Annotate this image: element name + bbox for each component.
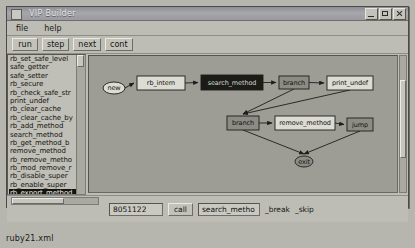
list-item[interactable]: remove_method (9, 147, 77, 155)
list-item[interactable]: rb_set_safe_level (9, 55, 77, 63)
step-button[interactable]: step (42, 38, 69, 51)
graph-canvas-wrap: newrb_internsearch_methodbranchprint_und… (86, 54, 408, 195)
screen: ruby21.xml VIP Builder file help run ste… (0, 0, 415, 248)
graph-node[interactable] (103, 82, 125, 94)
graph-edge (335, 123, 344, 125)
graph-canvas[interactable]: newrb_internsearch_methodbranchprint_und… (88, 55, 398, 193)
close-icon[interactable] (393, 8, 406, 20)
menu-bar: file help (7, 21, 408, 36)
canvas-scrollbar-thumb[interactable] (400, 80, 406, 158)
vip-builder-window: VIP Builder file help run step next cont… (6, 6, 409, 208)
graph-node[interactable] (279, 76, 309, 89)
graph-edge (243, 90, 350, 114)
run-button[interactable]: run (12, 38, 38, 51)
graph-node[interactable] (295, 156, 313, 167)
app-icon (11, 9, 22, 20)
horizontal-scrollbar[interactable] (11, 197, 99, 205)
graph-svg (89, 56, 398, 192)
list-item[interactable]: rb_secure (9, 80, 77, 88)
graph-node[interactable] (201, 75, 263, 90)
list-item[interactable]: rb_mod_remove_r (9, 164, 77, 172)
window-title: VIP Builder (29, 9, 76, 18)
desktop-file-label: ruby21.xml (6, 234, 54, 243)
list-item[interactable]: print_undef (9, 97, 77, 105)
status-bar: 8051122 call search_metho _break _skip (7, 195, 408, 222)
list-item[interactable]: rb_disable_super (9, 172, 77, 180)
graph-edge (185, 83, 198, 84)
list-item[interactable]: rb_remove_metho (9, 156, 77, 164)
list-item[interactable]: rb_add_method (9, 122, 77, 130)
break-label[interactable]: _break (265, 205, 290, 214)
graph-edge (304, 131, 360, 154)
maximize-icon[interactable] (379, 8, 392, 20)
call-button[interactable]: call (168, 203, 193, 216)
skip-label[interactable]: _skip (295, 205, 314, 214)
function-list-scrollbar[interactable] (76, 55, 85, 194)
list-item[interactable]: rb_enable_super (9, 181, 77, 189)
graph-edge (243, 89, 294, 114)
graph-edge (243, 130, 304, 154)
graph-node[interactable] (275, 116, 335, 130)
graph-node[interactable] (327, 76, 373, 90)
list-item[interactable]: rb_clear_cache (9, 105, 77, 113)
list-item[interactable]: rb_get_method_b (9, 139, 77, 147)
horizontal-scrollbar-thumb[interactable] (12, 198, 64, 204)
graph-node[interactable] (227, 116, 259, 130)
cont-button[interactable]: cont (105, 38, 133, 51)
symbol-field[interactable]: search_metho (198, 203, 260, 216)
list-item[interactable]: safe_getter (9, 63, 77, 71)
list-item[interactable]: search_method (9, 131, 77, 139)
graph-node[interactable] (347, 118, 373, 131)
list-item[interactable]: safe_setter (9, 72, 77, 80)
menu-item-file[interactable]: file (13, 23, 31, 34)
toolbar: run step next cont (7, 36, 408, 54)
function-list-panel[interactable]: rb_set_safe_levelsafe_gettersafe_setterr… (7, 54, 86, 195)
address-field[interactable]: 8051122 (109, 203, 163, 216)
graph-edge (309, 83, 324, 84)
window-buttons (365, 8, 406, 20)
list-item[interactable]: rb_check_safe_str (9, 89, 77, 97)
title-bar[interactable]: VIP Builder (7, 7, 408, 21)
body-area: rb_set_safe_levelsafe_gettersafe_setterr… (7, 54, 408, 195)
function-list: rb_set_safe_levelsafe_gettersafe_setterr… (9, 55, 77, 195)
menu-item-help[interactable]: help (41, 23, 64, 34)
minimize-icon[interactable] (365, 8, 378, 20)
list-item[interactable]: rb_clear_cache_by (9, 114, 77, 122)
graph-node[interactable] (137, 76, 185, 90)
graph-edge (125, 83, 134, 88)
next-button[interactable]: next (73, 38, 101, 51)
canvas-scrollbar[interactable] (399, 55, 407, 193)
scrollbar-thumb[interactable] (77, 55, 84, 67)
